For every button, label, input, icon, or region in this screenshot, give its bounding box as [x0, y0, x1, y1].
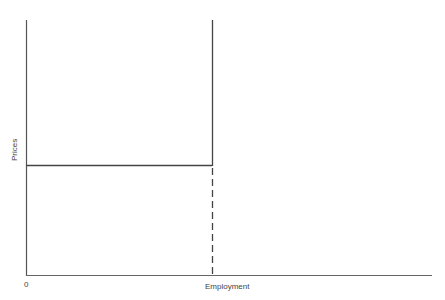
- chart: 0 Employment Prices: [0, 0, 445, 300]
- origin-label: 0: [24, 280, 29, 289]
- y-axis-label: Prices: [10, 139, 19, 161]
- x-axis-label: Employment: [205, 282, 250, 291]
